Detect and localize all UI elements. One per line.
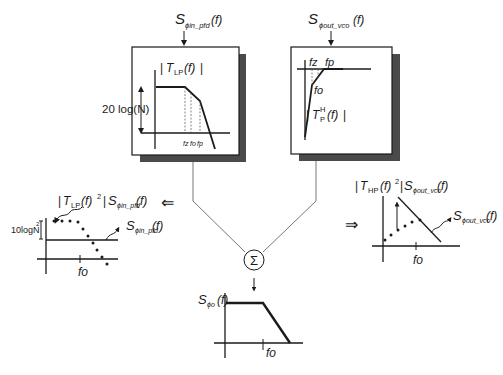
svg-text:(f): (f) — [327, 108, 338, 122]
sigma-symbol: Σ — [250, 253, 258, 268]
highpass-transfer-box: fz fp fo | T P H (f) | — [291, 47, 400, 161]
svg-text:(f): (f) — [217, 293, 228, 307]
left-implies-arrow: ⇐ — [161, 194, 174, 211]
left-gain-bracket — [39, 221, 43, 239]
svg-text:|: | — [103, 194, 106, 208]
svg-text:(f): (f) — [437, 179, 448, 193]
svg-text:S: S — [198, 292, 207, 307]
svg-text:S: S — [308, 10, 318, 27]
svg-text:(f): (f) — [353, 13, 364, 27]
svg-text:(f): (f) — [211, 13, 222, 27]
fz-label: fz — [183, 140, 189, 147]
highpass-to-summer-line — [263, 201, 316, 252]
output-noise-plot: S ϕo (f) fo — [198, 292, 303, 360]
svg-text:S: S — [126, 218, 135, 233]
right-result-label: | T HP (f) 2 | S ϕout_vco (f) — [355, 177, 448, 195]
svg-text:2: 2 — [395, 177, 399, 186]
lowpass-to-summer-line — [193, 201, 245, 252]
vco-noise-input-label: S ϕout_vco (f) — [308, 10, 364, 30]
right-input-label: S ϕout_vco (f) — [453, 208, 497, 225]
svg-text:ϕin_pfd: ϕin_pfd — [185, 21, 210, 30]
hp-fz-label: fz — [309, 56, 318, 68]
lowpass-gain-label: 20 log(N) — [102, 103, 149, 115]
svg-text:|: | — [355, 179, 358, 193]
svg-text:S: S — [404, 178, 413, 193]
svg-text:|: | — [343, 108, 346, 122]
svg-text:(f): (f) — [380, 179, 391, 193]
highpass-box-frame — [291, 47, 392, 154]
fo-label: fo — [190, 140, 196, 147]
right-filtered-vco-plot: | T HP (f) 2 | S ϕout_vco (f) ⇒ fo S ϕou — [345, 177, 497, 267]
pll-noise-diagram: S ϕin_pfd (f) S ϕout_vco (f) | T LP (f) … — [0, 0, 503, 375]
svg-text:(f): (f) — [136, 194, 147, 208]
svg-text:(f): (f) — [81, 194, 92, 208]
left-result-label: | T LP (f) 2 | S ϕin_pfd (f) — [58, 192, 147, 210]
hp-fo-label: fo — [314, 84, 323, 96]
svg-text:H: H — [320, 105, 325, 114]
right-result-dots — [384, 219, 422, 242]
output-noise-curve — [226, 303, 290, 343]
svg-text:ϕo: ϕo — [207, 301, 215, 309]
right-implies-arrow: ⇒ — [345, 216, 358, 233]
left-fo-label: fo — [78, 265, 88, 279]
svg-text:|: | — [306, 108, 309, 122]
svg-text:2: 2 — [97, 192, 101, 201]
right-input-pointer — [431, 219, 450, 233]
left-input-pointer — [106, 229, 118, 240]
output-fo-label: fo — [266, 346, 276, 360]
svg-text:(f): (f) — [152, 219, 163, 233]
svg-text:LP: LP — [174, 68, 183, 77]
summing-junction: Σ — [244, 250, 264, 270]
fp-label: fp — [197, 140, 203, 148]
svg-text:|: | — [58, 194, 61, 208]
svg-text:(f): (f) — [486, 209, 497, 223]
lowpass-title-bar-left: | — [160, 61, 163, 75]
left-filtered-pfd-plot: | T LP (f) 2 | S ϕin_pfd (f) ⇐ fo — [11, 192, 174, 279]
svg-text:S: S — [453, 208, 462, 223]
pfd-noise-input-label: S ϕin_pfd (f) — [175, 10, 222, 30]
hp-fp-label: fp — [325, 56, 334, 68]
svg-text:ϕout_vco: ϕout_vco — [319, 21, 349, 30]
svg-text:|: | — [400, 179, 403, 193]
left-input-label: S ϕin_pfd (f) — [126, 218, 163, 235]
svg-text:S: S — [108, 193, 117, 208]
svg-text:P: P — [320, 115, 325, 124]
svg-text:(f): (f) — [184, 61, 195, 75]
svg-text:|: | — [200, 61, 203, 75]
svg-text:HP: HP — [368, 186, 378, 195]
right-fo-label: fo — [413, 253, 423, 267]
left-result-pointer — [56, 207, 82, 221]
svg-text:S: S — [175, 10, 185, 27]
